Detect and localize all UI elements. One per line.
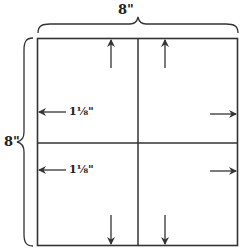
- top-brace: [38, 17, 238, 33]
- inset-dimension-label: 1⅛": [69, 106, 94, 117]
- inset-dimension-label: 1⅛": [69, 164, 94, 175]
- width-dimension-label: 8": [118, 3, 134, 16]
- folding-diagram: [0, 0, 245, 250]
- height-dimension-label: 8": [4, 135, 20, 148]
